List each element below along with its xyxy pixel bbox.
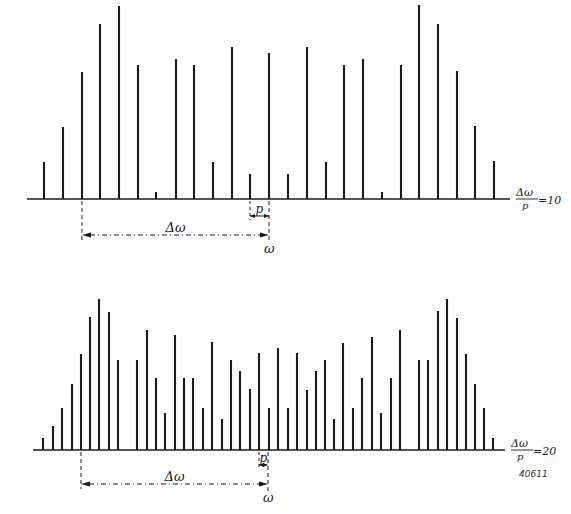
ratio-numerator: Δω [510, 437, 528, 450]
ratio-denominator: p [517, 451, 524, 462]
ratio-value: =20 [533, 445, 556, 458]
p-label: p [256, 202, 264, 216]
ratio-numerator: Δω [515, 186, 533, 199]
ratio-value: =10 [538, 194, 561, 207]
delta-omega-label: Δω [164, 469, 185, 484]
p-arrowhead-right-icon [264, 214, 269, 218]
arrowhead-left-icon [81, 482, 90, 487]
delta-omega-dimension: Δω p ω [82, 201, 275, 256]
spectrum-chart-ratio-20: Δω p ω Δω p =20 [33, 299, 556, 505]
p-label: p [260, 451, 268, 465]
p-arrowhead-left-icon [250, 214, 255, 218]
omega-label: ω [264, 241, 275, 256]
spectral-lines [43, 299, 493, 450]
spectrum-chart-ratio-10: Δω p ω Δω p =10 [27, 5, 561, 256]
arrowhead-left-icon [82, 233, 91, 238]
spectral-lines [44, 5, 494, 199]
delta-omega-dimension: Δω p ω [81, 451, 274, 505]
ratio-label: Δω p =10 [515, 186, 561, 211]
delta-omega-label: Δω [165, 220, 186, 235]
ratio-label: Δω p =20 [510, 437, 556, 462]
spectrum-figure: Δω p ω Δω p =10 Δω p ω Δω [0, 0, 571, 514]
arrowhead-right-icon [259, 482, 268, 487]
figure-code: 40611 [519, 469, 548, 479]
omega-label: ω [263, 490, 274, 505]
ratio-denominator: p [522, 200, 529, 211]
arrowhead-right-icon [260, 233, 269, 238]
